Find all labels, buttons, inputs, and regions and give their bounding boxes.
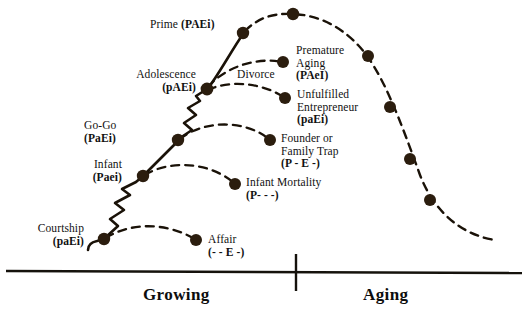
label-founder-line1: Founder or [281, 132, 333, 144]
node-premature-aging [277, 56, 289, 68]
node-go-go [172, 134, 184, 146]
node-aristocracy [384, 101, 396, 113]
label-prime-name: Prime [150, 18, 178, 30]
label-premature-aging: PrematureAging(PAeI) [296, 44, 344, 82]
label-premature-code: (PAeI) [296, 69, 328, 81]
label-prime: Prime (PAEi) [150, 18, 215, 31]
phase-label-growing: Growing [143, 285, 210, 305]
label-unfulfilled-line2: Entrepreneur [297, 101, 358, 113]
label-unfulfilled-line1: Unfulfilled [297, 88, 349, 100]
label-infant-mortality-name: Infant Mortality [246, 176, 321, 188]
node-prime [237, 27, 249, 39]
label-founder-or-family-trap: Founder orFamily Trap(P - E -) [281, 132, 339, 170]
label-affair: Affair(- - E -) [208, 233, 244, 258]
label-go-go-code: (PaEi) [84, 132, 116, 144]
label-infant: Infant(Paei) [52, 158, 122, 183]
growth-segment-infant-gogo [145, 141, 178, 174]
baseline-axis [6, 271, 522, 273]
node-founder-or-family-trap [264, 134, 276, 146]
node-stable [362, 50, 374, 62]
node-courtship [98, 233, 110, 245]
label-affair-code: (- - E -) [208, 246, 244, 258]
node-unfulfilled-entrepreneur [279, 92, 291, 104]
label-infant-mortality: Infant Mortality(P- - -) [246, 176, 321, 201]
label-adolescence: Adolescence(pAEi) [106, 68, 196, 93]
label-infant-name: Infant [94, 158, 122, 170]
label-prime-code: (PAEi) [181, 18, 215, 30]
label-premature-line1: Premature [296, 44, 344, 56]
branch-affair [106, 226, 196, 240]
label-affair-name: Affair [208, 233, 237, 245]
label-adolescence-name: Adolescence [136, 68, 196, 80]
label-unfulfilled-entrepreneur: UnfulfilledEntrepreneur(paEi) [297, 88, 358, 126]
branch-founder-family-trap [180, 125, 270, 141]
node-adolescence [201, 83, 214, 96]
label-premature-line2: Aging [296, 57, 325, 69]
label-divorce-name: Divorce [237, 68, 275, 80]
aging-curve-dashed [245, 14, 495, 240]
label-go-go-name: Go-Go [84, 119, 116, 131]
node-infant-mortality [229, 178, 241, 190]
label-courtship: Courtship(paEi) [4, 222, 84, 247]
label-go-go: Go-Go(PaEi) [84, 119, 116, 144]
node-infant [137, 170, 149, 182]
phase-label-aging: Aging [363, 285, 408, 305]
label-infant-code: (Paei) [93, 171, 122, 183]
node-peak [287, 8, 299, 20]
label-infant-mortality-code: (P- - -) [246, 189, 279, 201]
node-recrimination [404, 153, 416, 165]
label-unfulfilled-code: (paEi) [297, 113, 328, 125]
label-founder-line2: Family Trap [281, 145, 339, 157]
branch-unfulfilled-entrepreneur [208, 84, 285, 98]
label-adolescence-code: (pAEi) [162, 81, 196, 93]
organizational-lifecycle-diagram: Prime (PAEi) Adolescence(pAEi) Go-Go(PaE… [0, 0, 526, 323]
node-bureaucracy [424, 194, 436, 206]
label-courtship-code: (paEi) [53, 235, 84, 247]
branch-infant-mortality [145, 165, 235, 184]
label-courtship-name: Courtship [38, 222, 84, 234]
node-affair [190, 234, 202, 246]
label-divorce: Divorce [237, 68, 275, 81]
label-founder-code: (P - E -) [281, 157, 320, 169]
